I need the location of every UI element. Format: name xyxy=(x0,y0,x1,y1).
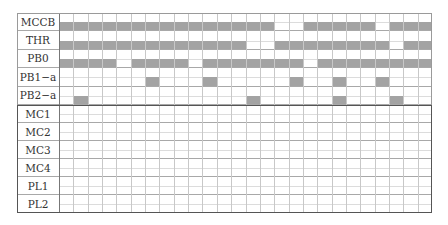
signal-on-segment xyxy=(274,41,289,49)
signal-on-segment xyxy=(332,22,347,30)
signal-on-segment xyxy=(174,41,189,49)
time-gridline xyxy=(188,13,189,213)
signal-on-segment xyxy=(317,59,332,67)
signal-on-segment xyxy=(332,96,347,104)
signal-on-segment xyxy=(317,41,332,49)
signal-on-segment xyxy=(202,22,217,30)
signal-on-segment xyxy=(59,59,74,67)
signal-on-segment xyxy=(174,59,189,67)
signal-on-segment xyxy=(102,22,117,30)
signal-on-segment xyxy=(260,22,275,30)
time-gridline xyxy=(317,13,318,213)
signal-on-segment xyxy=(375,77,390,85)
signal-on-segment xyxy=(418,22,433,30)
signal-on-segment xyxy=(73,22,88,30)
signal-on-segment xyxy=(145,41,160,49)
signal-on-segment xyxy=(73,59,88,67)
signal-label: PB1−a xyxy=(17,68,59,86)
signal-on-segment xyxy=(231,22,246,30)
signal-on-segment xyxy=(202,59,217,67)
signal-on-segment xyxy=(303,22,318,30)
signal-on-segment xyxy=(145,59,160,67)
signal-label: PL2 xyxy=(17,195,59,213)
signal-on-segment xyxy=(360,59,375,67)
signal-label: MC2 xyxy=(17,123,59,141)
time-gridline xyxy=(360,13,361,213)
time-gridline xyxy=(375,13,376,213)
signal-on-segment xyxy=(403,41,418,49)
signal-on-segment xyxy=(418,59,433,67)
signal-on-segment xyxy=(332,77,347,85)
signal-on-segment xyxy=(202,41,217,49)
time-gridline xyxy=(116,13,117,213)
time-gridline xyxy=(88,13,89,213)
signal-on-segment xyxy=(246,59,261,67)
signal-on-segment xyxy=(102,41,117,49)
signal-on-segment xyxy=(418,41,433,49)
signal-on-segment xyxy=(274,59,289,67)
signal-on-segment xyxy=(260,59,275,67)
time-gridline xyxy=(246,13,247,213)
time-gridline xyxy=(332,13,333,213)
signal-on-segment xyxy=(159,41,174,49)
time-gridline xyxy=(389,13,390,213)
signal-on-segment xyxy=(360,41,375,49)
time-gridline xyxy=(346,13,347,213)
time-gridline xyxy=(231,13,232,213)
time-gridline xyxy=(274,13,275,213)
signal-on-segment xyxy=(217,22,232,30)
timing-grid xyxy=(59,13,432,213)
signal-on-segment xyxy=(289,41,304,49)
signal-on-segment xyxy=(389,22,404,30)
signal-on-segment xyxy=(389,96,404,104)
time-gridline xyxy=(202,13,203,213)
signal-label: THR xyxy=(17,31,59,49)
time-gridline xyxy=(403,13,404,213)
time-gridline xyxy=(260,13,261,213)
signal-on-segment xyxy=(231,41,246,49)
time-gridline xyxy=(217,13,218,213)
time-gridline xyxy=(159,13,160,213)
signal-on-segment xyxy=(317,22,332,30)
signal-on-segment xyxy=(174,22,189,30)
signal-on-segment xyxy=(332,59,347,67)
signal-on-segment xyxy=(59,22,74,30)
signal-on-segment xyxy=(145,77,160,85)
signal-label-column: MCCBTHRPB0PB1−aPB2−aMC1MC2MC3MC4PL1PL2 xyxy=(17,13,59,213)
signal-label: MCCB xyxy=(17,13,59,31)
signal-on-segment xyxy=(289,59,304,67)
signal-on-segment xyxy=(346,59,361,67)
label-divider xyxy=(59,13,60,213)
signal-on-segment xyxy=(217,41,232,49)
signal-on-segment xyxy=(102,59,117,67)
signal-on-segment xyxy=(246,22,261,30)
signal-on-segment xyxy=(188,22,203,30)
signal-on-segment xyxy=(332,41,347,49)
signal-on-segment xyxy=(188,41,203,49)
signal-on-segment xyxy=(375,41,390,49)
signal-on-segment xyxy=(217,59,232,67)
time-gridline xyxy=(131,13,132,213)
signal-label: MC1 xyxy=(17,105,59,123)
signal-on-segment xyxy=(346,22,361,30)
signal-on-segment xyxy=(116,22,131,30)
signal-on-segment xyxy=(289,77,304,85)
signal-on-segment xyxy=(202,77,217,85)
signal-on-segment xyxy=(116,41,131,49)
signal-on-segment xyxy=(375,59,390,67)
signal-on-segment xyxy=(88,41,103,49)
signal-on-segment xyxy=(403,22,418,30)
signal-label: PB2−a xyxy=(17,87,59,105)
timing-chart: MCCBTHRPB0PB1−aPB2−aMC1MC2MC3MC4PL1PL2 xyxy=(17,13,432,213)
signal-on-segment xyxy=(403,59,418,67)
signal-on-segment xyxy=(360,22,375,30)
signal-on-segment xyxy=(73,96,88,104)
signal-label: PL1 xyxy=(17,177,59,195)
signal-on-segment xyxy=(59,41,74,49)
time-gridline xyxy=(418,13,419,213)
signal-on-segment xyxy=(131,22,146,30)
signal-on-segment xyxy=(389,59,404,67)
signal-label: PB0 xyxy=(17,50,59,68)
signal-on-segment xyxy=(88,59,103,67)
signal-on-segment xyxy=(131,59,146,67)
